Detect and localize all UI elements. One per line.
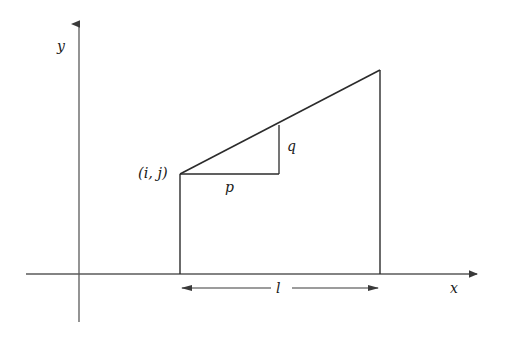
segment-label-q: q bbox=[287, 139, 296, 153]
geometry-figure: y x (i, j) p q l bbox=[0, 0, 507, 346]
vertex-label-ij: (i, j) bbox=[138, 166, 168, 181]
dimension-label-l: l bbox=[276, 281, 280, 295]
trapezoid-slope-side bbox=[180, 70, 380, 174]
segment-label-p: p bbox=[225, 180, 234, 194]
figure-canvas bbox=[0, 0, 507, 346]
x-axis-label: x bbox=[450, 281, 458, 295]
y-axis-label: y bbox=[57, 39, 65, 53]
